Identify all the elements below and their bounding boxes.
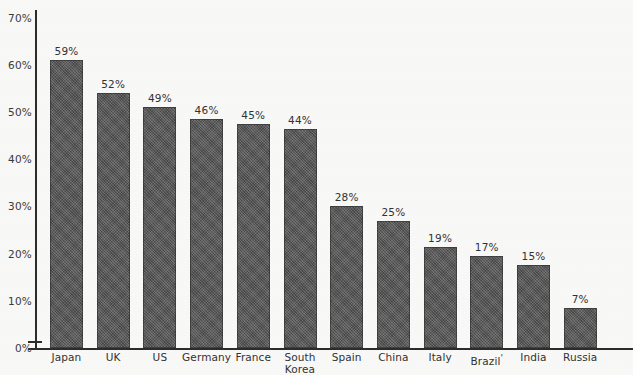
bar-value-label: 59%	[55, 45, 79, 57]
bar-group[interactable]: 17%	[470, 0, 503, 375]
category-label-line: UK	[106, 351, 121, 363]
bar[interactable]	[284, 129, 317, 348]
category-label-line: Italy	[428, 351, 451, 363]
bar-value-label: 49%	[148, 92, 172, 104]
category-label-line: China	[378, 351, 409, 363]
bar-group[interactable]: 28%	[330, 0, 363, 375]
bar-group[interactable]: 46%	[190, 0, 223, 375]
bar-group[interactable]: 7%	[564, 0, 597, 375]
bar-value-label: 45%	[241, 109, 265, 121]
bar-group[interactable]: 15%	[517, 0, 550, 375]
category-label-line: South	[284, 351, 315, 363]
bar[interactable]	[470, 256, 503, 348]
category-label-line: Japan	[52, 351, 82, 363]
category-label-line: Russia	[563, 351, 597, 363]
bars-layer: 59%52%49%46%45%44%28%25%19%17%15%7%	[0, 0, 633, 375]
bar-value-label: 28%	[335, 191, 359, 203]
bar-group[interactable]: 45%	[237, 0, 270, 375]
bar-group[interactable]: 52%	[97, 0, 130, 375]
bar-group[interactable]: 25%	[377, 0, 410, 375]
bar-value-label: 7%	[572, 293, 589, 305]
bar-value-label: 15%	[522, 250, 546, 262]
bar-group[interactable]: 59%	[50, 0, 83, 375]
bar[interactable]	[190, 119, 223, 348]
bar[interactable]	[377, 221, 410, 348]
x-axis-category-label[interactable]: Russia	[549, 352, 611, 364]
bar-group[interactable]: 44%	[284, 0, 317, 375]
bar[interactable]	[50, 60, 83, 348]
bar-value-label: 52%	[101, 78, 125, 90]
bar-value-label: 44%	[288, 114, 312, 126]
category-label-line: France	[236, 351, 272, 363]
bar-value-label: 19%	[428, 232, 452, 244]
bar[interactable]	[143, 107, 176, 348]
bar[interactable]	[424, 247, 457, 348]
x-axis-category-labels: JapanUKUSGermanyFranceSouthKoreaSpainChi…	[0, 352, 633, 375]
bar-value-label: 25%	[381, 206, 405, 218]
bar-chart: 70%60%50%40%30%20%10%0% 59%52%49%46%45%4…	[0, 0, 633, 375]
category-label-line: Spain	[332, 351, 362, 363]
category-label-line: Brazil'	[471, 355, 503, 367]
bar-value-label: 17%	[475, 241, 499, 253]
bar-value-label: 46%	[195, 104, 219, 116]
plot-area: 70%60%50%40%30%20%10%0% 59%52%49%46%45%4…	[0, 0, 633, 375]
bar[interactable]	[237, 124, 270, 348]
category-label-line: US	[153, 351, 168, 363]
bar[interactable]	[564, 308, 597, 348]
bar[interactable]	[517, 265, 550, 348]
category-label-line: India	[520, 351, 546, 363]
bar-group[interactable]: 49%	[143, 0, 176, 375]
category-label-line: Korea	[269, 364, 331, 375]
bar-group[interactable]: 19%	[424, 0, 457, 375]
bar[interactable]	[97, 93, 130, 348]
bar[interactable]	[330, 206, 363, 348]
